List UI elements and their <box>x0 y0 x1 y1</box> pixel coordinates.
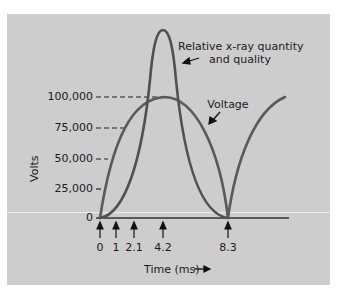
xray-annotation-line2: and quality <box>178 53 302 66</box>
x-tick-2-1: 2.1 <box>122 242 146 253</box>
y-tick-0: 0 <box>23 212 93 223</box>
y-tick-100000: 100,000 <box>23 91 93 102</box>
xray-annotation-line1: Relative x-ray quantity <box>178 40 302 53</box>
xray-annotation: Relative x-ray quantity and quality <box>178 40 302 66</box>
x-tick-arrows <box>97 222 231 238</box>
y-axis-label: Volts <box>29 155 40 182</box>
y-tick-25000: 25,000 <box>23 183 93 194</box>
x-axis-label: Time (ms) <box>144 264 199 275</box>
voltage-pointer-arrow <box>209 112 220 124</box>
x-tick-8-3: 8.3 <box>216 242 240 253</box>
voltage-curve <box>100 97 285 218</box>
x-tick-4-2: 4.2 <box>151 242 175 253</box>
voltage-annotation: Voltage <box>203 98 253 111</box>
y-tick-75000: 75,000 <box>23 122 93 133</box>
